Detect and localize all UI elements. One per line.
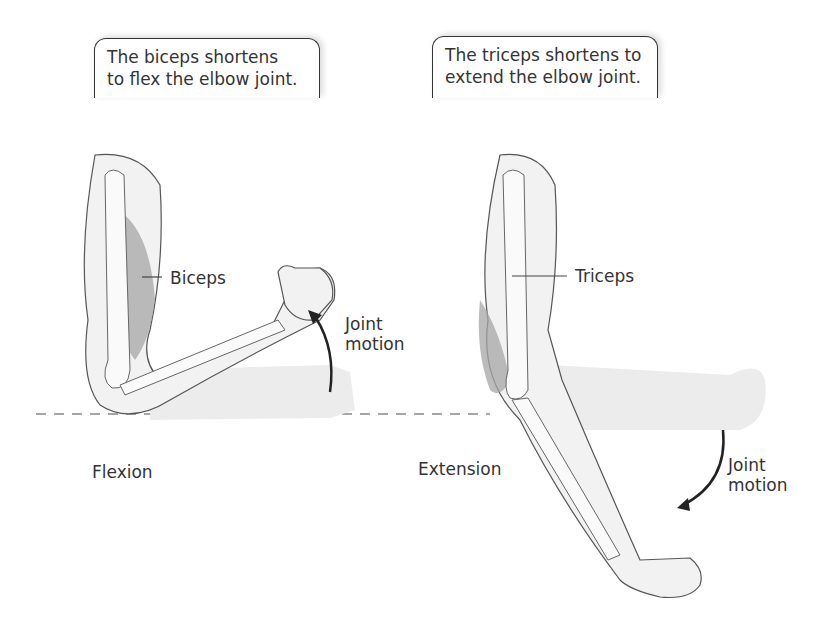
flexion-callout: The biceps shortens to flex the elbow jo… bbox=[94, 38, 320, 98]
joint-motion-label-right: Joint motion bbox=[728, 455, 788, 495]
joint-motion-left-line2: motion bbox=[345, 334, 405, 354]
extension-label: Extension bbox=[418, 459, 501, 479]
extension-callout-line2: extend the elbow joint. bbox=[445, 66, 645, 88]
joint-motion-left-line1: Joint bbox=[345, 314, 405, 334]
flexion-callout-line1: The biceps shortens bbox=[107, 46, 307, 68]
biceps-label: Biceps bbox=[170, 268, 226, 288]
flexion-callout-line2: to flex the elbow joint. bbox=[107, 68, 307, 90]
joint-motion-arrow-right bbox=[683, 430, 724, 505]
extension-callout: The triceps shortens to extend the elbow… bbox=[432, 36, 658, 98]
ghost-forearm-right bbox=[550, 365, 766, 430]
extension-callout-line1: The triceps shortens to bbox=[445, 44, 645, 66]
joint-motion-label-left: Joint motion bbox=[345, 314, 405, 354]
triceps-label: Triceps bbox=[575, 266, 634, 286]
joint-motion-right-line2: motion bbox=[728, 475, 788, 495]
joint-motion-right-line1: Joint bbox=[728, 455, 788, 475]
flexion-label: Flexion bbox=[92, 462, 153, 482]
arrowhead-right bbox=[677, 498, 690, 511]
